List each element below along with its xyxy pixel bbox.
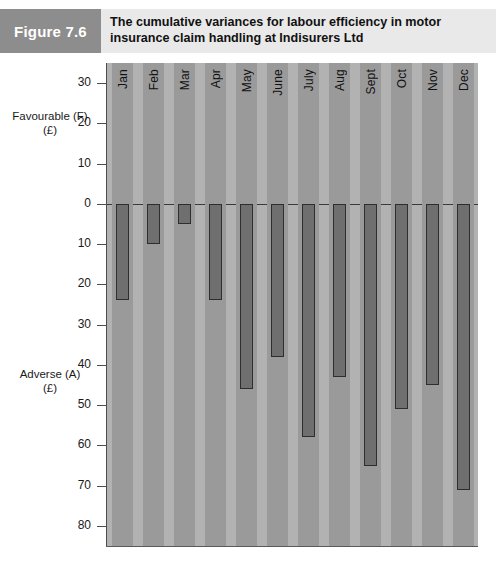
- y-tick-label: 70: [78, 478, 91, 492]
- bar-sept: [364, 204, 378, 466]
- adverse-axis-caption-line-2: (£): [0, 381, 100, 395]
- plot-bottom-rule: [106, 546, 478, 547]
- month-label-feb: Feb: [147, 69, 161, 90]
- month-label-oct: Oct: [395, 69, 409, 88]
- y-tick-mark: [97, 83, 106, 84]
- figure-title-line-2: insurance claim handling at Indisurers L…: [110, 30, 488, 46]
- month-label-july: July: [302, 69, 316, 91]
- footer-strip: [0, 552, 496, 564]
- y-tick-label: 50: [78, 397, 91, 411]
- favourable-axis-caption-line-2: (£): [0, 123, 100, 137]
- bar-nov: [426, 204, 440, 385]
- bar-july: [302, 204, 316, 437]
- y-tick-mark: [97, 405, 106, 406]
- bar-aug: [333, 204, 347, 377]
- column-band: [174, 63, 196, 546]
- y-tick-mark: [97, 244, 106, 245]
- y-tick-mark: [97, 284, 106, 285]
- y-tick-label: 20: [78, 276, 91, 290]
- month-label-jan: Jan: [116, 69, 130, 89]
- bar-dec: [457, 204, 471, 490]
- bar-oct: [395, 204, 409, 409]
- month-label-sept: Sept: [364, 69, 378, 95]
- month-label-mar: Mar: [178, 69, 192, 90]
- bar-june: [271, 204, 285, 357]
- figure-number-tag: Figure 7.6: [0, 9, 101, 53]
- bar-mar: [178, 204, 192, 224]
- column-band: [112, 63, 134, 546]
- y-tick-label: 10: [78, 236, 91, 250]
- favourable-axis-caption: Favourable (F)(£): [0, 109, 100, 137]
- bar-may: [240, 204, 254, 389]
- month-label-apr: Apr: [209, 69, 223, 88]
- month-label-may: May: [240, 69, 254, 92]
- figure-title: The cumulative variances for labour effi…: [101, 9, 496, 53]
- figure-header-band: Figure 7.6 The cumulative variances for …: [0, 9, 496, 53]
- month-label-june: June: [271, 69, 285, 96]
- month-label-nov: Nov: [426, 69, 440, 91]
- y-tick-mark: [97, 365, 106, 366]
- bar-jan: [116, 204, 130, 301]
- y-tick-label: 60: [78, 437, 91, 451]
- column-band: [205, 63, 227, 546]
- y-tick-label: 30: [78, 75, 91, 89]
- y-tick-mark: [97, 164, 106, 165]
- y-tick-label: 10: [78, 156, 91, 170]
- favourable-axis-caption-line-1: Favourable (F): [0, 109, 100, 123]
- y-tick-label: 0: [84, 196, 91, 210]
- adverse-axis-caption-line-1: Adverse (A): [0, 367, 100, 381]
- y-tick-mark: [97, 486, 106, 487]
- column-band: [143, 63, 165, 546]
- y-tick-mark: [97, 445, 106, 446]
- bar-feb: [147, 204, 161, 244]
- y-tick-label: 30: [78, 317, 91, 331]
- y-tick-mark: [97, 325, 106, 326]
- figure-title-line-1: The cumulative variances for labour effi…: [110, 14, 488, 30]
- adverse-axis-caption: Adverse (A)(£): [0, 367, 100, 395]
- bar-apr: [209, 204, 223, 301]
- month-label-aug: Aug: [333, 69, 347, 91]
- y-axis: 30201001020304050607080Favourable (F)(£)…: [0, 63, 106, 546]
- y-tick-label: 80: [78, 518, 91, 532]
- y-tick-mark: [97, 526, 106, 527]
- chart-plot-area: JanFebMarAprMayJuneJulyAugSeptOctNovDec: [106, 63, 478, 546]
- y-tick-mark: [97, 204, 106, 205]
- month-label-dec: Dec: [457, 69, 471, 91]
